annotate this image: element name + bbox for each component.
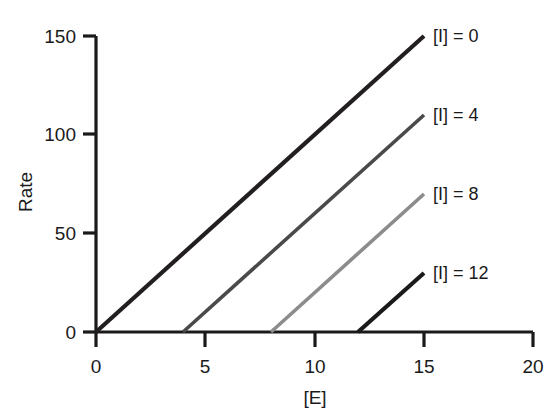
x-tick-label-10: 10 [304,356,325,377]
legend-label-I-4: [I] = 4 [433,105,479,125]
y-axis-ticks [83,36,96,332]
y-axis-tick-labels: 0 50 100 150 [44,26,76,343]
x-tick-label-0: 0 [91,356,102,377]
rate-vs-enzyme-line-chart: 0 50 100 150 0 5 10 15 20 [E] Rate [0,0,551,414]
y-axis-title: Rate [15,172,36,212]
legend-label-I-12: [I] = 12 [433,263,489,283]
series-line-I-0 [96,36,424,332]
series-line-I-8 [271,194,424,332]
data-series-group [96,36,424,332]
y-tick-label-100: 100 [44,124,76,145]
chart-figure: 0 50 100 150 0 5 10 15 20 [E] Rate [0,0,551,414]
x-tick-label-15: 15 [413,356,434,377]
x-axis-tick-labels: 0 5 10 15 20 [91,356,544,377]
legend-annotations: [I] = 0 [I] = 4 [I] = 8 [I] = 12 [433,26,489,283]
legend-label-I-8: [I] = 8 [433,184,479,204]
y-tick-label-50: 50 [55,223,76,244]
x-tick-label-5: 5 [200,356,211,377]
x-tick-label-20: 20 [522,356,543,377]
y-tick-label-0: 0 [65,322,76,343]
legend-label-I-0: [I] = 0 [433,26,479,46]
y-tick-label-150: 150 [44,26,76,47]
x-axis-ticks [96,332,533,347]
series-line-I-12 [358,273,424,332]
x-axis-title: [E] [303,387,326,408]
